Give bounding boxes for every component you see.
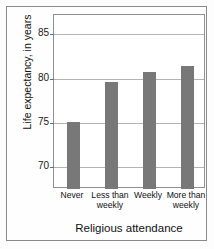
y-axis-tick-labels: 70758085 [26,14,49,188]
plot-area [53,14,205,188]
bar [105,82,118,189]
x-axis-tick-label: More thanweekly [163,191,209,210]
chart-figure: Life expectancy, in years 70758085 Never… [0,0,214,249]
y-axis-tick-mark [50,167,54,168]
bar [67,122,80,189]
y-axis-tick-mark [50,123,54,124]
y-axis-tick-label: 70 [38,161,49,171]
y-axis-tick-label: 80 [38,73,49,83]
y-axis-tick-label: 85 [38,28,49,38]
bar [143,72,156,189]
y-axis-tick-mark [50,79,54,80]
x-axis-title: Religious attendance [53,222,205,234]
x-axis-tick-labels: NeverLess thanweeklyWeeklyMore thanweekl… [53,191,205,217]
y-axis-tick-mark [50,34,54,35]
y-axis-tick-label: 75 [38,117,49,127]
bar [181,66,194,189]
y-axis-title-container: Life expectancy, in years [10,14,26,188]
gridline [54,34,204,35]
